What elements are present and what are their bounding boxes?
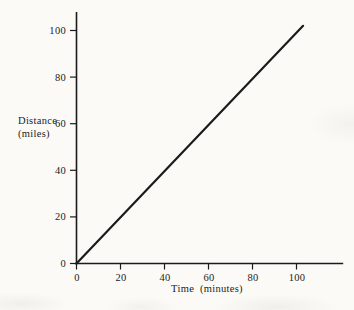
plot-svg: 020406080100020406080100	[0, 0, 354, 310]
y-tick-label: 20	[55, 211, 66, 222]
x-tick-label: 40	[159, 272, 170, 283]
x-axis-title: Time (minutes)	[137, 283, 277, 294]
chart-container: 020406080100020406080100 Distance (miles…	[0, 0, 354, 310]
y-tick-label: 100	[49, 25, 66, 36]
x-tick-label: 100	[289, 272, 306, 283]
data-line	[77, 26, 304, 264]
y-axis-title-line1: Distance	[18, 114, 57, 127]
y-tick-label: 40	[55, 165, 66, 176]
y-tick-label: 80	[55, 72, 66, 83]
x-tick-label: 20	[115, 272, 126, 283]
x-tick-label: 60	[203, 272, 214, 283]
x-tick-label: 0	[74, 272, 80, 283]
y-tick-label: 0	[60, 258, 66, 269]
y-axis-title: Distance (miles)	[18, 114, 57, 140]
x-tick-label: 80	[247, 272, 258, 283]
y-axis-title-line2: (miles)	[18, 127, 57, 140]
